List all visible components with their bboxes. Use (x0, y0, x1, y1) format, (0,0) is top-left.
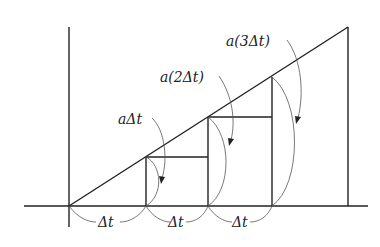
interval3-brace-right (250, 206, 272, 222)
arrowhead-icon (159, 176, 165, 184)
interval3-brace-left (208, 206, 232, 222)
step3-height-brace (272, 77, 295, 206)
step1-label: aΔt (118, 111, 142, 127)
interval3-label: Δt (231, 214, 248, 230)
interval2-label: Δt (167, 214, 184, 230)
step1-height-brace (146, 157, 159, 206)
label3-pointer (287, 40, 301, 118)
arrowhead-icon (295, 116, 301, 124)
interval1-label: Δt (97, 214, 114, 230)
interval1-brace-left (69, 206, 96, 222)
step3-label: a(3Δt) (226, 33, 270, 49)
interval1-brace-right (120, 206, 146, 222)
diagram-canvas: aΔt a(2Δt) a(3Δt) Δt Δt Δt (0, 0, 380, 247)
step2-label: a(2Δt) (160, 69, 204, 85)
interval2-brace-left (146, 206, 170, 222)
acceleration-staircase-diagram: aΔt a(2Δt) a(3Δt) Δt Δt Δt (0, 0, 380, 247)
step2-height-brace (208, 117, 226, 206)
interval2-brace-right (186, 206, 208, 222)
arrowhead-icon (228, 138, 234, 146)
